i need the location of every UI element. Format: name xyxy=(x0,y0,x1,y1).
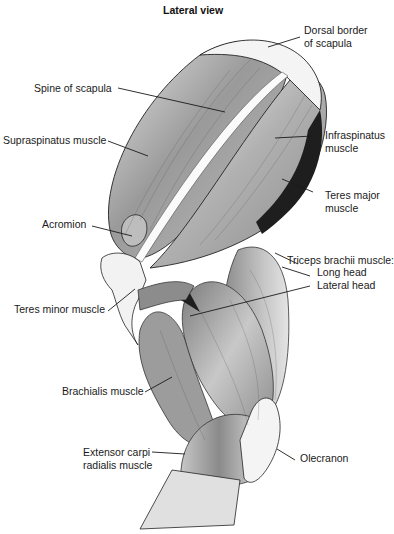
label-teres-major: Teres major muscle xyxy=(325,189,380,214)
label-line: Teres major xyxy=(325,189,380,202)
forearm-sleeve xyxy=(140,470,240,529)
label-line: Dorsal border xyxy=(304,24,368,37)
label-extensor-carpi: Extensor carpi radialis muscle xyxy=(83,446,152,471)
label-line: Extensor carpi xyxy=(83,446,152,459)
label-triceps-lateral-head: Lateral head xyxy=(317,279,375,292)
label-line: Infraspinatus xyxy=(325,129,385,142)
label-teres-minor: Teres minor muscle xyxy=(14,303,105,316)
label-olecranon: Olecranon xyxy=(300,452,348,465)
label-spine-of-scapula: Spine of scapula xyxy=(34,82,112,95)
label-dorsal-border: Dorsal border of scapula xyxy=(304,24,368,49)
label-triceps-long-head: Long head xyxy=(317,266,367,279)
label-supraspinatus: Supraspinatus muscle xyxy=(3,134,106,147)
label-line: radialis muscle xyxy=(83,459,152,472)
label-triceps-heading: Triceps brachii muscle: xyxy=(287,254,394,267)
figure-title: Lateral view xyxy=(163,4,223,16)
label-line: of scapula xyxy=(304,37,368,50)
label-line: muscle xyxy=(325,202,380,215)
label-brachialis: Brachialis muscle xyxy=(62,385,144,398)
label-infraspinatus: Infraspinatus muscle xyxy=(325,129,385,154)
label-line: muscle xyxy=(325,142,385,155)
label-acromion: Acromion xyxy=(42,218,86,231)
